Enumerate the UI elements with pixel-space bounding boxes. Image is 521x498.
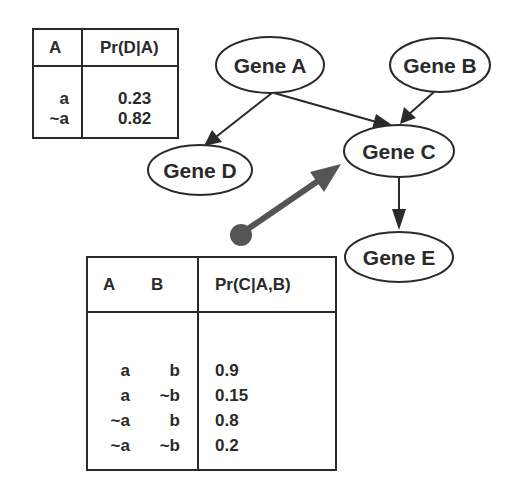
node-gene-b[interactable]: Gene B [390,38,490,92]
row-3-b: b [170,411,180,430]
row-not-a-prob: 0.82 [118,109,151,128]
row-4-a: ~a [111,436,130,455]
row-2-b: ~b [160,386,180,405]
header-a: A [103,275,115,294]
node-label: Gene E [363,246,435,269]
row-4-b: ~b [160,436,180,455]
arrowhead-icon [310,164,341,192]
row-a-value: a [60,89,69,108]
node-label: Gene D [163,159,237,182]
edge-b-to-c [400,92,434,124]
node-label: Gene B [403,54,477,77]
row-1-prob: 0.9 [215,361,239,380]
arrowhead-icon [392,209,406,230]
row-a-prob: 0.23 [118,89,151,108]
header-a: A [49,38,61,57]
column-divider [81,30,83,137]
header-b: B [151,275,163,294]
node-gene-a[interactable]: Gene A [216,37,324,93]
node-gene-c[interactable]: Gene C [344,125,454,177]
cpt-d-table: A Pr(D|A) a 0.23 ~a 0.82 [32,28,179,139]
row-2-a: a [121,386,130,405]
node-gene-d[interactable]: Gene D [148,145,252,195]
edge-a-to-c [274,93,395,129]
node-label: Gene A [234,54,307,77]
row-1-a: a [121,361,130,380]
node-label: Gene C [362,140,436,163]
header-prob: Pr(C|A,B) [215,275,291,294]
row-3-prob: 0.8 [215,411,239,430]
column-divider [197,258,199,469]
edge-c-to-e [392,177,406,230]
row-2-prob: 0.15 [215,386,248,405]
node-gene-e[interactable]: Gene E [345,232,453,282]
cpt-c-table: A B Pr(C|A,B) a b 0.9 a ~b 0.15 ~a b 0.8… [86,256,337,471]
row-4-prob: 0.2 [215,436,239,455]
row-not-a-value: ~a [50,109,69,128]
row-3-a: ~a [111,411,130,430]
header-divider [88,311,335,313]
row-1-b: b [170,361,180,380]
header-prob: Pr(D|A) [100,38,159,57]
arrowhead-icon [204,130,222,146]
header-divider [34,65,177,67]
edge-a-to-d [204,93,272,146]
pointer-dot-icon [230,224,252,246]
